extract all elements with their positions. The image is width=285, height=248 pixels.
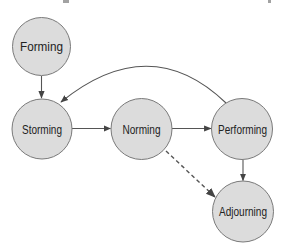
diagram-canvas: Forming Storming Norming Performing Adjo… [0,0,285,248]
edge-performing-to-storming-curved [61,66,226,103]
node-norming: Norming [111,99,172,160]
node-storming-label: Storming [22,122,62,137]
node-adjourning: Adjourning [213,181,274,242]
node-forming: Forming [13,18,71,76]
team-stages-diagram: Forming Storming Norming Performing Adjo… [0,0,285,248]
edge-norming-to-adjourning-dashed [166,151,215,197]
node-forming-label: Forming [20,39,63,54]
node-performing: Performing [212,99,273,160]
node-storming: Storming [12,99,72,159]
node-norming-label: Norming [123,122,161,137]
node-adjourning-label: Adjourning [219,204,267,219]
node-performing-label: Performing [218,122,267,137]
